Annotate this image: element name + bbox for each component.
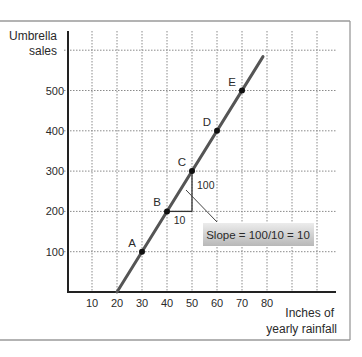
point-label-b: B — [153, 196, 161, 208]
svg-text:Umbrella: Umbrella — [9, 29, 57, 43]
point-label-d: D — [203, 116, 211, 128]
y-tick-500: 500 — [46, 85, 64, 97]
point-c — [189, 168, 195, 174]
x-tick-10: 10 — [86, 297, 98, 309]
svg-text:10: 10 — [174, 214, 186, 226]
x-tick-labels: 1020304050607080 — [86, 297, 273, 309]
y-tick-100: 100 — [46, 246, 64, 258]
svg-text:Inches of: Inches of — [285, 306, 334, 320]
point-label-a: A — [128, 237, 136, 249]
x-tick-50: 50 — [186, 297, 198, 309]
point-label-e: E — [228, 76, 236, 88]
y-tick-400: 400 — [46, 125, 64, 137]
y-tick-300: 300 — [46, 165, 64, 177]
rainfall-umbrella-chart: 100200300400500 1020304050607080 Umbrell… — [0, 0, 362, 357]
point-label-c: C — [178, 156, 186, 168]
point-e — [239, 88, 245, 94]
x-tick-60: 60 — [211, 297, 223, 309]
x-tick-70: 70 — [236, 297, 248, 309]
svg-text:yearly rainfall: yearly rainfall — [266, 322, 337, 336]
x-axis-title: Inches of yearly rainfall — [266, 306, 337, 336]
x-tick-20: 20 — [111, 297, 123, 309]
x-tick-30: 30 — [136, 297, 148, 309]
svg-text:sales: sales — [29, 44, 57, 58]
svg-text:Slope = 100/10 = 10: Slope = 100/10 = 10 — [206, 229, 310, 241]
vertical-gridlines — [92, 31, 317, 292]
x-tick-80: 80 — [261, 297, 273, 309]
point-d — [214, 128, 220, 134]
x-tick-40: 40 — [161, 297, 173, 309]
y-tick-labels: 100200300400500 — [46, 85, 64, 258]
point-b — [164, 208, 170, 214]
axes — [67, 31, 336, 292]
slope-callout: Slope = 100/10 = 10 — [203, 223, 314, 246]
y-tick-200: 200 — [46, 205, 64, 217]
point-a — [139, 249, 145, 255]
callout-leader — [186, 190, 217, 222]
horizontal-gridlines — [64, 50, 336, 252]
svg-text:100: 100 — [197, 179, 215, 191]
y-axis-title: Umbrella sales — [9, 29, 57, 58]
